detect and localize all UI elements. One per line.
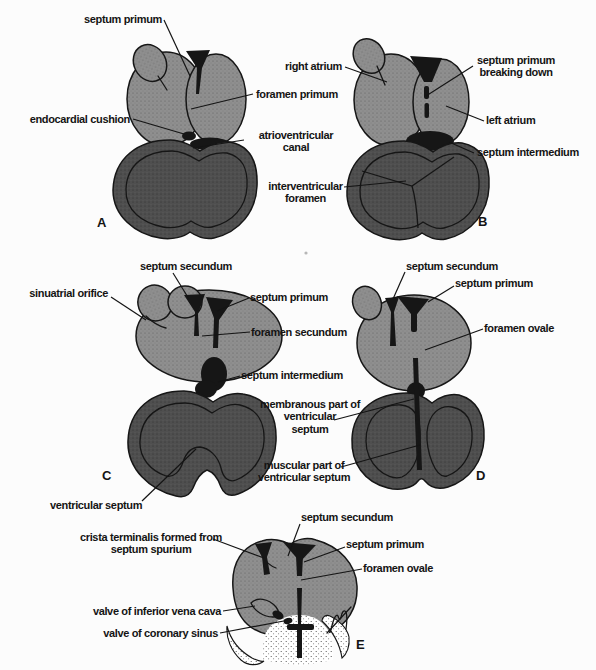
label-d-septum-primum: septum primum bbox=[455, 277, 533, 289]
label-e-foramen-ovale: foramen ovale bbox=[363, 562, 433, 574]
label-a-endocardial-cushion: endocardial cushion bbox=[10, 113, 130, 125]
label-b-septum-primum-breaking-down: septum primum breaking down bbox=[464, 54, 568, 79]
label-e-valve-of-coronary-sinus: valve of coronary sinus bbox=[84, 627, 218, 639]
heart-e-septal-crossbar bbox=[287, 624, 314, 630]
label-e-crista-terminalis: crista terminalis formed from septum spu… bbox=[74, 531, 228, 556]
heart-a-endocardial-cushion bbox=[182, 132, 196, 141]
panel-letter-d: D bbox=[476, 468, 485, 483]
label-a-foramen-primum: foramen primum bbox=[256, 88, 338, 100]
panel-letter-e: E bbox=[356, 637, 365, 652]
label-b-interventricular-foramen: interventricular foramen bbox=[258, 180, 353, 205]
heart-e bbox=[227, 539, 357, 666]
heart-e-septum-primum-upper bbox=[296, 556, 303, 576]
label-d-muscular-part: muscular part of ventricular septum bbox=[248, 459, 360, 484]
label-c-ventricular-septum: ventricular septum bbox=[50, 499, 142, 511]
label-d-membranous-part: membranous part of ventricular septum bbox=[256, 398, 364, 435]
label-e-valve-of-inferior-vena-cava: valve of inferior vena cava bbox=[80, 605, 221, 617]
label-a-atrioventricular-canal: atrioventricular canal bbox=[246, 129, 346, 154]
label-e-septum-secundum: septum secundum bbox=[301, 511, 393, 523]
label-a-septum-primum: septum primum bbox=[52, 13, 162, 25]
figure-canvas: septum primum foramen primum endocardial… bbox=[0, 0, 596, 670]
label-d-septum-secundum: septum secundum bbox=[406, 260, 498, 272]
label-c-septum-intermedium: septum intermedium bbox=[241, 369, 343, 381]
label-c-septum-secundum: septum secundum bbox=[140, 260, 232, 272]
print-speck bbox=[304, 251, 307, 254]
heart-b-septum-primum-dash bbox=[425, 103, 430, 118]
heart-a-right-atrium bbox=[186, 54, 246, 144]
panel-letter-a: A bbox=[97, 215, 106, 230]
label-b-left-atrium: left atrium bbox=[486, 114, 535, 126]
panel-letter-c: C bbox=[102, 468, 111, 483]
label-d-foramen-ovale: foramen ovale bbox=[484, 322, 554, 334]
label-c-foramen-secundum: foramen secundum bbox=[251, 326, 347, 338]
label-b-septum-intermedium: septum intermedium bbox=[477, 146, 579, 158]
panel-letter-b: B bbox=[478, 214, 487, 229]
label-c-septum-primum: septum primum bbox=[250, 291, 328, 303]
heart-d bbox=[348, 282, 484, 489]
label-b-right-atrium: right atrium bbox=[272, 60, 342, 72]
heart-d-septum-primum bbox=[411, 310, 417, 332]
label-c-sinuatrial-orifice: sinuatrial orifice bbox=[20, 287, 108, 299]
heart-a-ventricles bbox=[113, 140, 257, 239]
heart-b-septum-primum-dash bbox=[424, 86, 429, 99]
label-e-septum-primum: septum primum bbox=[346, 538, 424, 550]
heart-a bbox=[113, 39, 257, 239]
